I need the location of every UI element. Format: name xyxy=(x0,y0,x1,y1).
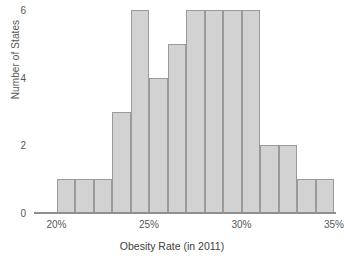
x-tick-label: 35% xyxy=(324,219,344,230)
histogram-bar xyxy=(223,10,242,213)
x-axis-title: Obesity Rate (in 2011) xyxy=(0,240,344,252)
histogram-bar xyxy=(242,10,261,213)
x-tick-label: 20% xyxy=(46,219,66,230)
histogram-bar xyxy=(149,78,168,213)
histogram-bar xyxy=(297,179,316,213)
x-axis-tick-labels: 20%25%30%35% xyxy=(38,219,334,237)
y-axis-tick-labels: 0246 xyxy=(0,0,36,263)
histogram-bar xyxy=(131,10,150,213)
histogram-bar xyxy=(186,10,205,213)
histogram-bar xyxy=(75,179,94,213)
plot-area xyxy=(38,10,334,213)
x-tick-label: 25% xyxy=(139,219,159,230)
histogram-bar xyxy=(260,145,279,213)
x-tick-label: 30% xyxy=(231,219,251,230)
histogram-bar xyxy=(94,179,113,213)
y-tick-label: 2 xyxy=(20,140,26,151)
histogram-bar xyxy=(316,179,335,213)
y-tick-label: 4 xyxy=(20,72,26,83)
histogram-bar xyxy=(112,112,131,214)
histogram-bar xyxy=(57,179,76,213)
bar-series xyxy=(38,10,334,213)
histogram-bar xyxy=(168,44,187,213)
histogram-bar xyxy=(205,10,224,213)
histogram-chart: Number of States 0246 20%25%30%35% Obesi… xyxy=(0,0,344,263)
y-tick-label: 6 xyxy=(20,5,26,16)
y-tick-label: 0 xyxy=(20,208,26,219)
histogram-bar xyxy=(279,145,298,213)
x-axis-line xyxy=(34,212,336,214)
